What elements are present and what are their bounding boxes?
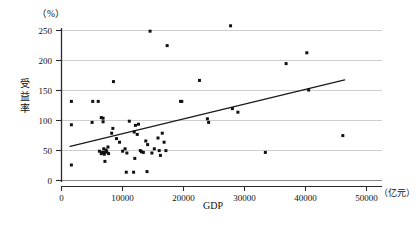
data-point xyxy=(106,146,109,149)
data-point xyxy=(236,111,239,114)
data-point xyxy=(91,121,94,124)
gridlines xyxy=(61,31,382,181)
data-point xyxy=(146,170,149,173)
data-point xyxy=(107,152,110,155)
data-point xyxy=(91,100,94,103)
y-tick-label: 150 xyxy=(39,86,53,96)
data-point xyxy=(305,51,308,54)
data-point xyxy=(164,149,167,152)
data-point xyxy=(70,164,73,167)
data-point xyxy=(161,132,164,135)
data-point xyxy=(231,107,234,110)
data-point xyxy=(112,80,115,83)
data-point xyxy=(142,151,145,154)
y-tick-label: 50 xyxy=(43,146,53,156)
data-point xyxy=(110,132,113,135)
data-point xyxy=(150,152,153,155)
data-point xyxy=(118,141,121,144)
data-point xyxy=(70,123,73,126)
data-point xyxy=(125,152,128,155)
data-point xyxy=(115,137,118,140)
data-point xyxy=(229,24,232,27)
data-point xyxy=(134,124,137,127)
y-tick-label: 200 xyxy=(39,56,53,66)
x-axis-title: GDP xyxy=(0,200,418,211)
data-point xyxy=(97,100,100,103)
data-point xyxy=(102,120,105,123)
data-point xyxy=(341,134,344,137)
data-point xyxy=(133,157,136,160)
data-point xyxy=(111,127,114,130)
data-point xyxy=(198,79,201,82)
data-point xyxy=(103,160,106,163)
data-point xyxy=(206,117,209,120)
y-tick-label: 250 xyxy=(39,26,53,36)
data-point xyxy=(207,121,210,124)
data-point xyxy=(159,154,162,157)
y-axis-ticks: 050100150200250 xyxy=(39,26,62,186)
plot-area: 01000020000300004000050000 0501001502002… xyxy=(0,0,418,230)
y-tick-label: 100 xyxy=(39,116,53,126)
data-point-markers xyxy=(70,24,344,173)
trend-line-segment xyxy=(70,80,345,147)
x-axis-unit-label: （亿元） xyxy=(379,186,415,199)
data-point xyxy=(136,133,139,136)
data-point xyxy=(158,149,161,152)
data-point xyxy=(146,143,149,146)
data-point xyxy=(102,117,105,120)
data-point xyxy=(137,123,140,126)
data-point xyxy=(166,44,169,47)
data-point xyxy=(128,120,131,123)
data-point xyxy=(125,171,128,174)
data-point xyxy=(163,141,166,144)
y-tick-label: 0 xyxy=(48,176,53,186)
data-point xyxy=(124,147,127,150)
scatter-chart: （%） 受 益 率 01000020000300004000050000 050… xyxy=(0,0,418,230)
data-point xyxy=(132,171,135,174)
data-point xyxy=(70,100,73,103)
data-point xyxy=(144,140,147,143)
data-point xyxy=(179,100,182,103)
data-point xyxy=(149,30,152,33)
data-point xyxy=(153,147,156,150)
data-point xyxy=(156,137,159,140)
data-point xyxy=(264,151,267,154)
data-point xyxy=(285,62,288,65)
data-point xyxy=(307,89,310,92)
data-point xyxy=(133,131,136,134)
trend-line xyxy=(70,80,345,147)
